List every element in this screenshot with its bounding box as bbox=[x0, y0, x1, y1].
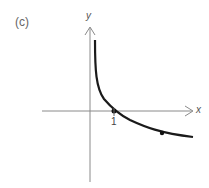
graph bbox=[0, 0, 209, 188]
log-curve bbox=[95, 40, 193, 137]
x-axis-label: x bbox=[196, 104, 201, 115]
tick-label-1: 1 bbox=[111, 116, 117, 127]
y-axis-label: y bbox=[86, 10, 91, 21]
point-second bbox=[160, 131, 164, 135]
